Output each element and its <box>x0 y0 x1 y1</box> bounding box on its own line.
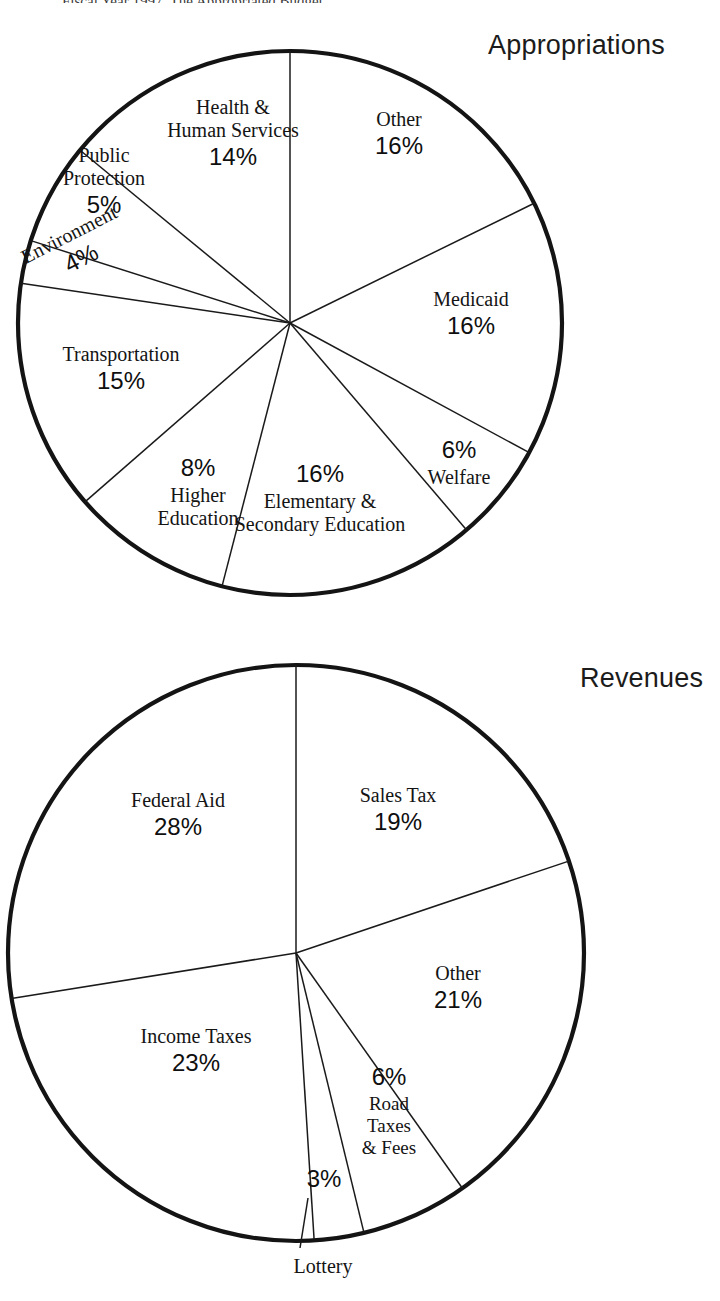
slice-label-transportation-name: Transportation <box>62 343 179 366</box>
slice-label-higher-education-name-line2: Education <box>157 507 238 530</box>
slice-label-lottery-name-wrap: Lottery <box>294 1255 353 1278</box>
slice-label-sales-tax-pct: 19% <box>360 807 437 837</box>
slice-label-medicaid-pct: 16% <box>433 311 509 341</box>
slice-label-public-protection: Public Protection 5% <box>63 144 145 220</box>
slice-label-income-taxes-pct: 23% <box>141 1048 252 1078</box>
slice-label-hhs-name-line2: Human Services <box>167 119 299 142</box>
pie-chart-appropriations: Appropriations <box>0 0 720 640</box>
slice-label-other-name: Other <box>375 108 423 131</box>
slice-label-elementary-pct: 16% <box>235 459 406 489</box>
slice-label-welfare-pct: 6% <box>428 435 491 465</box>
slice-label-elementary-secondary-education: 16% Elementary & Secondary Education <box>235 459 406 536</box>
slice-label-road-taxes-name-line2: Taxes <box>362 1115 416 1137</box>
slice-label-medicaid-name: Medicaid <box>433 288 509 311</box>
slice-label-other-revenues: Other 21% <box>434 962 482 1015</box>
slice-label-road-taxes-name-line1: Road <box>362 1093 416 1115</box>
pie-chart-revenues: Revenues Sales Tax 19% <box>0 630 720 1301</box>
slice-label-federal-aid-name: Federal Aid <box>131 789 225 812</box>
slice-label-higher-education-name-line1: Higher <box>157 484 238 507</box>
slice-label-higher-education-pct: 8% <box>157 453 238 483</box>
slice-label-welfare: 6% Welfare <box>428 435 491 489</box>
slice-label-income-taxes-name: Income Taxes <box>141 1025 252 1048</box>
slice-label-sales-tax: Sales Tax 19% <box>360 784 437 837</box>
slice-label-health-human-services: Health & Human Services 14% <box>167 96 299 172</box>
appropriations-pie-svg <box>0 0 720 640</box>
slice-label-federal-aid-pct: 28% <box>131 812 225 842</box>
slice-label-road-taxes-pct: 6% <box>362 1062 416 1092</box>
slice-label-sales-tax-name: Sales Tax <box>360 784 437 807</box>
slice-label-public-protection-name-line1: Public <box>63 144 145 167</box>
slice-label-road-taxes-fees: 6% Road Taxes & Fees <box>362 1062 416 1159</box>
slice-label-income-taxes: Income Taxes 23% <box>141 1025 252 1078</box>
slice-label-federal-aid: Federal Aid 28% <box>131 789 225 842</box>
slice-label-lottery-pct: 3% <box>307 1164 342 1194</box>
slice-label-transportation: Transportation 15% <box>62 343 179 396</box>
slice-label-road-taxes-name-line3: & Fees <box>362 1137 416 1159</box>
revenues-pie-svg <box>0 630 720 1301</box>
slice-label-public-protection-pct: 5% <box>63 190 145 220</box>
slice-label-hhs-pct: 14% <box>167 142 299 172</box>
slice-label-hhs-name-line1: Health & <box>167 96 299 119</box>
slice-label-other-revenues-name: Other <box>434 962 482 985</box>
slice-label-other-pct: 16% <box>375 131 423 161</box>
slice-label-elementary-name-line2: Secondary Education <box>235 513 406 536</box>
slice-label-medicaid: Medicaid 16% <box>433 288 509 341</box>
slice-label-transportation-pct: 15% <box>62 366 179 396</box>
slice-label-public-protection-name-line2: Protection <box>63 167 145 190</box>
slice-label-other-revenues-pct: 21% <box>434 985 482 1015</box>
slice-label-lottery-pct-wrap: 3% <box>307 1164 342 1194</box>
page-root: Fiscal Year 1997, The Appropriated Budge… <box>0 0 720 1301</box>
slice-label-welfare-name: Welfare <box>428 466 491 489</box>
slice-label-higher-education: 8% Higher Education <box>157 453 238 530</box>
slice-label-elementary-name-line1: Elementary & <box>235 490 406 513</box>
slice-label-other: Other 16% <box>375 108 423 161</box>
slice-label-lottery-name: Lottery <box>294 1255 353 1278</box>
